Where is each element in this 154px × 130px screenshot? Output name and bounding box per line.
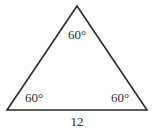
angle-label-bottom-left: 60° <box>25 91 43 104</box>
side-label-base: 12 <box>71 115 84 128</box>
angle-label-apex: 60° <box>68 28 86 41</box>
angle-label-bottom-right: 60° <box>111 91 129 104</box>
triangle-drawing <box>0 0 154 130</box>
geometry-figure: 60° 60° 60° 12 <box>0 0 154 130</box>
